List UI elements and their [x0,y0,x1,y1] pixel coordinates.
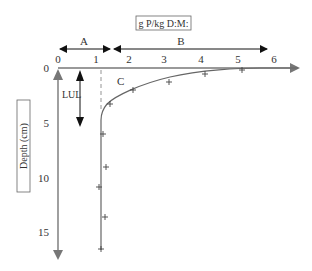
x-tick: 6 [271,53,277,65]
data-point [166,79,172,85]
y-axis-title-box: Depth (cm) [17,100,30,192]
y-tick: 10 [38,172,50,184]
lul-label: LUL [62,89,81,100]
y-tick: 5 [44,117,50,129]
x-tick: 5 [235,53,241,65]
y-tick: 15 [38,226,50,238]
data-point [107,101,113,107]
data-markers [96,67,245,252]
x-axis-title-box: g P/kg D:M: [136,16,191,30]
y-axis-title: Depth (cm) [18,123,30,169]
x-axis-title: g P/kg D:M: [138,18,188,29]
chart-canvas: g P/kg D:M: A B 0 1 2 3 4 5 6 0 5 10 15 … [0,0,312,271]
y-tick: 0 [44,62,50,74]
x-tick: 2 [126,53,132,65]
range-arrow-a: A [60,35,110,49]
x-tick-labels: 0 1 2 3 4 5 6 [55,53,277,65]
fitted-curve [101,68,298,250]
region-c-label: C [117,75,124,87]
data-point [98,246,104,252]
lul-arrow: LUL [62,70,84,127]
x-tick: 0 [55,53,61,65]
x-tick: 3 [161,53,167,65]
y-tick-labels: 0 5 10 15 [38,62,50,238]
data-point [102,214,108,220]
range-a-label: A [80,35,88,47]
x-tick: 4 [198,53,204,65]
x-tick: 1 [93,53,99,65]
data-point [103,164,109,170]
range-arrow-b: B [114,35,267,49]
range-b-label: B [177,35,184,47]
